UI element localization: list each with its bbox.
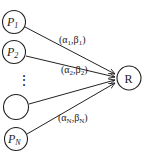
node-p2: P2 bbox=[3, 41, 26, 64]
node-pn: PN bbox=[5, 128, 28, 151]
edge-pn-r bbox=[27, 83, 115, 134]
edge-blank-r bbox=[29, 80, 115, 104]
ellipsis: ⋮ bbox=[17, 73, 31, 88]
svg-text:R: R bbox=[125, 72, 133, 86]
edge-p1-r bbox=[25, 27, 115, 74]
node-blank bbox=[4, 95, 29, 120]
edge-label-p2: (α2,β2) bbox=[61, 64, 88, 77]
edge-label-pn: (αN,βN) bbox=[58, 112, 88, 125]
diagram-canvas: P1 P2 ⋮ PN R (α1,β1) (α2,β2) (αN,βN) bbox=[0, 0, 148, 154]
node-r: R bbox=[117, 66, 141, 90]
edge-label-p1: (α1,β1) bbox=[59, 34, 86, 47]
node-p1: P1 bbox=[3, 11, 26, 34]
